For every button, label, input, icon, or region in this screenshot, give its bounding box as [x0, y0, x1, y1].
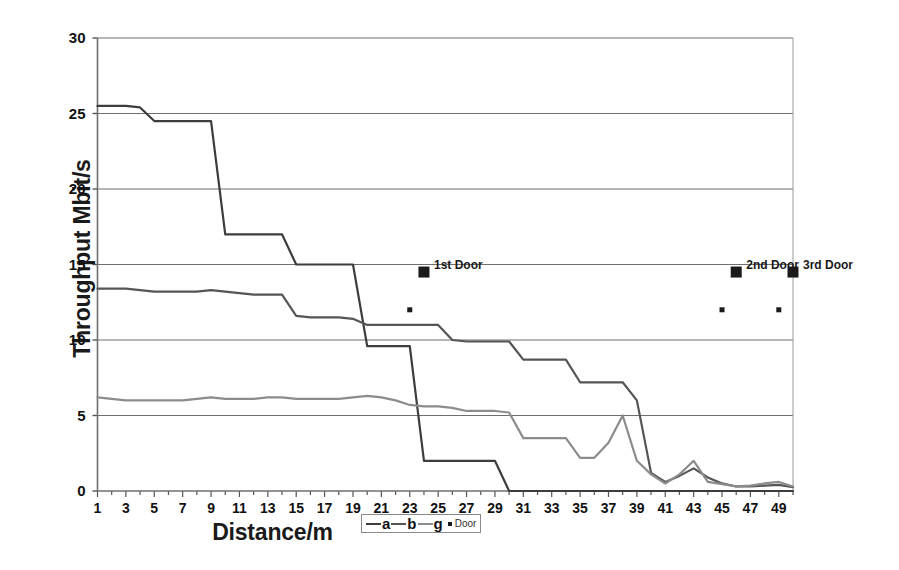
x-tick-label-37: 37 — [593, 500, 623, 516]
door-marker-small-3 — [776, 307, 781, 312]
legend-line-swatch-b — [391, 523, 406, 525]
y-tick-label-25: 25 — [46, 105, 86, 122]
series-line-a — [98, 106, 794, 491]
x-tick-label-43: 43 — [679, 500, 709, 516]
y-tick-label-15: 15 — [46, 256, 86, 273]
x-tick-label-11: 11 — [224, 500, 254, 516]
x-axis-title: Distance/m — [180, 519, 365, 546]
x-tick-label-33: 33 — [537, 500, 567, 516]
legend: abgDoor — [361, 514, 481, 533]
door-label-2: 2nd Door — [746, 258, 799, 272]
x-tick-label-41: 41 — [650, 500, 680, 516]
door-markers — [407, 267, 798, 313]
x-tick-label-13: 13 — [253, 500, 283, 516]
door-marker-small-2 — [720, 307, 725, 312]
legend-line-swatch-a — [366, 523, 381, 525]
x-tick-label-5: 5 — [139, 500, 169, 516]
gridlines — [98, 38, 794, 416]
series-line-b — [98, 289, 794, 488]
x-tick-label-35: 35 — [565, 500, 595, 516]
y-tick-label-10: 10 — [46, 331, 86, 348]
x-tick-label-49: 49 — [764, 500, 794, 516]
x-tick-label-3: 3 — [111, 500, 141, 516]
door-label-3: 3rd Door — [803, 258, 853, 272]
legend-item-a: a — [366, 515, 391, 532]
y-tick-label-0: 0 — [46, 482, 86, 499]
legend-label-g: g — [434, 515, 443, 532]
x-tick-label-9: 9 — [196, 500, 226, 516]
legend-marker-swatch-door-icon — [448, 522, 452, 526]
x-tick-label-39: 39 — [622, 500, 652, 516]
legend-item-b: b — [391, 515, 417, 532]
x-tick-label-7: 7 — [168, 500, 198, 516]
x-tick-label-15: 15 — [281, 500, 311, 516]
y-tick-label-5: 5 — [46, 407, 86, 424]
series-line-g — [98, 396, 794, 487]
throughput-distance-chart: Throughput Mbit/s Distance/m 05101520253… — [0, 0, 899, 570]
legend-item-g: g — [418, 515, 444, 532]
legend-line-swatch-g — [418, 523, 433, 525]
series-lines — [98, 106, 794, 491]
legend-item-door: Door — [444, 518, 477, 529]
x-tick-label-45: 45 — [707, 500, 737, 516]
door-label-1: 1st Door — [434, 258, 483, 272]
y-tick-label-30: 30 — [46, 29, 86, 46]
door-marker-large-2 — [731, 267, 742, 278]
x-tick-label-47: 47 — [735, 500, 765, 516]
legend-label-door: Door — [455, 518, 477, 529]
x-tick-label-31: 31 — [508, 500, 538, 516]
x-tick-label-29: 29 — [480, 500, 510, 516]
legend-label-a: a — [382, 515, 390, 532]
x-tick-label-17: 17 — [310, 500, 340, 516]
x-tick-label-1: 1 — [83, 500, 113, 516]
door-marker-small-1 — [407, 307, 412, 312]
legend-label-b: b — [407, 515, 416, 532]
y-tick-label-20: 20 — [46, 180, 86, 197]
door-marker-large-1 — [418, 267, 429, 278]
plot-area — [0, 0, 899, 570]
